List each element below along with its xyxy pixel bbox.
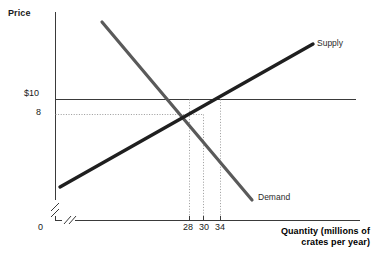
y-tick-label-8: 8: [36, 107, 41, 117]
demand-series-label: Demand: [258, 192, 290, 202]
origin-label: 0: [38, 222, 43, 232]
x-tick-label-34: 34: [215, 222, 225, 232]
y-axis-title: Price: [8, 8, 31, 18]
x-axis-break-icon: [64, 216, 76, 224]
supply-curve[interactable]: [60, 44, 313, 187]
x-tick-label-30: 30: [199, 222, 209, 232]
demand-curve[interactable]: [102, 22, 252, 200]
supply-demand-chart: Price $10 8 0 28 30 34 Supply Demand Qua…: [0, 0, 373, 264]
supply-series-label: Supply: [317, 38, 343, 48]
y-tick-label-10: $10: [24, 88, 39, 98]
x-tick-label-28: 28: [183, 222, 193, 232]
x-axis-title-line2: crates per year): [301, 237, 370, 247]
y-axis-break-icon: [51, 203, 59, 217]
x-axis-title: Quantity (millions of crates per year): [246, 226, 370, 248]
x-axis-title-line1: Quantity (millions of: [281, 226, 370, 236]
